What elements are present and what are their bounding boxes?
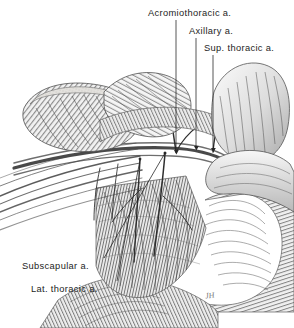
artist-signature: JH [204, 290, 214, 300]
label-axillary-artery: Axillary a. [189, 27, 233, 36]
label-lateral-thoracic-artery: Lat. thoracic a. [31, 285, 98, 294]
label-subscapular-artery: Subscapular a. [22, 262, 89, 271]
deltoid-muscle [212, 63, 290, 162]
label-acromiothoracic-artery: Acromiothoracic a. [148, 9, 231, 18]
label-superior-thoracic-artery: Sup. thoracic a. [204, 44, 274, 53]
anatomical-plate: Acromiothoracic a. Axillary a. Sup. thor… [0, 0, 294, 328]
